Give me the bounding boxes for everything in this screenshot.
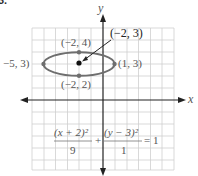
center-point <box>76 60 81 65</box>
ellipse-graph: 3. y x (−2, 4) −5, 3) (1, 3) (−2, 2) (−2… <box>0 0 198 176</box>
x-axis-arrow-left <box>20 97 28 103</box>
point-label-center: (−2, 3) <box>110 27 143 39</box>
equation-rhs: = 1 <box>144 135 158 146</box>
problem-number: 3. <box>0 0 7 6</box>
center-pointer-head <box>82 56 88 62</box>
point-label-left: −5, 3) <box>3 58 29 69</box>
x-axis-arrow-right <box>178 97 186 103</box>
equation-term1-denominator: 9 <box>70 145 76 156</box>
y-axis-arrow-up <box>100 14 106 22</box>
point-label-right: (1, 3) <box>118 58 142 69</box>
point-label-top: (−2, 4) <box>61 37 91 48</box>
vertex-right <box>112 62 116 66</box>
y-axis-arrow-down <box>100 168 106 176</box>
equation-plus: + <box>95 135 101 146</box>
point-label-bottom: (−2, 2) <box>61 79 91 90</box>
equation-term2-numerator: (y − 3)² <box>104 127 138 138</box>
vertex-left <box>41 62 45 66</box>
equation-term2-denominator: 1 <box>121 145 127 156</box>
equation-term1-numerator: (x + 2)² <box>54 127 88 138</box>
x-axis-label: x <box>188 93 193 105</box>
coordinate-plane <box>0 0 198 176</box>
y-axis-label: y <box>98 2 103 14</box>
covertex-top <box>77 50 81 54</box>
axes <box>24 18 182 172</box>
